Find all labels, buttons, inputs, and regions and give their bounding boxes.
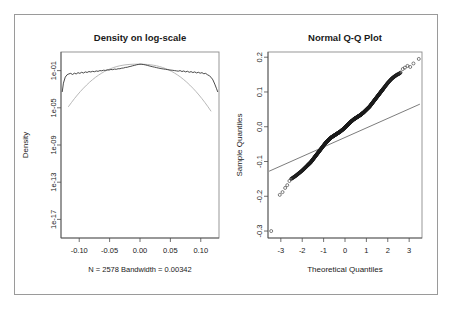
qq-data-point (417, 57, 420, 60)
qq-y-tick-label: 0.0 (255, 122, 264, 132)
density-plot-title: Density on log-scale (94, 32, 186, 43)
qq-x-tick-label: -1 (320, 246, 327, 255)
qq-x-tick-label: 3 (407, 246, 411, 255)
figure-canvas: Density on log-scale1e-011e-051e-091e-13… (0, 0, 451, 310)
density-y-tick-label: 1e-05 (49, 98, 58, 117)
qq-data-point (278, 193, 281, 196)
qq-plot-title: Normal Q-Q Plot (308, 32, 383, 43)
density-x-tick-label: 0.05 (163, 246, 178, 255)
qq-data-point (284, 186, 287, 189)
density-normal-reference-curve (68, 64, 211, 111)
density-y-axis-label: Density (21, 132, 30, 159)
qq-x-axis-label: Theoretical Quantiles (307, 265, 383, 274)
qq-plot-panel: Normal Q-Q Plot0.20.10.0-0.1-0.2-0.3-3-2… (226, 14, 438, 295)
qq-y-tick-label: -0.3 (255, 225, 264, 238)
qq-y-tick-label: 0.1 (255, 87, 264, 97)
qq-plot-svg: Normal Q-Q Plot0.20.10.0-0.1-0.2-0.3-3-2… (226, 14, 438, 295)
qq-plot-frame (268, 52, 422, 238)
qq-data-point (412, 62, 415, 65)
qq-y-tick-label: -0.1 (255, 155, 264, 168)
qq-reference-line (269, 104, 420, 171)
density-x-tick-label: -0.05 (101, 246, 118, 255)
qq-data-point (281, 191, 284, 194)
density-x-tick-label: -0.10 (71, 246, 88, 255)
qq-data-point (286, 184, 289, 187)
density-x-tick-label: 0.00 (133, 246, 148, 255)
density-plot-panel: Density on log-scale1e-011e-051e-091e-13… (14, 14, 226, 295)
density-subtitle: N = 2578 Bandwidth = 0.00342 (88, 265, 191, 274)
qq-y-tick-label: 0.2 (255, 52, 264, 62)
qq-y-tick-label: -0.2 (255, 190, 264, 203)
qq-x-tick-label: -3 (277, 246, 284, 255)
qq-x-tick-label: -2 (299, 246, 306, 255)
qq-data-point (270, 230, 273, 233)
density-plot-svg: Density on log-scale1e-011e-051e-091e-13… (14, 14, 226, 295)
qq-x-tick-label: 2 (386, 246, 390, 255)
qq-y-axis-label: Sample Quantiles (235, 113, 244, 176)
density-y-tick-label: 1e-13 (49, 173, 58, 192)
density-x-tick-label: 0.10 (193, 246, 208, 255)
density-plot-frame (61, 52, 219, 238)
qq-x-tick-label: 1 (364, 246, 368, 255)
density-y-tick-label: 1e-17 (49, 210, 58, 229)
density-y-tick-label: 1e-09 (49, 135, 58, 154)
qq-point-cloud (270, 57, 421, 232)
qq-x-tick-label: 0 (343, 246, 347, 255)
density-empirical-curve (62, 64, 218, 92)
qq-data-point (409, 65, 412, 68)
density-y-tick-label: 1e-01 (49, 61, 58, 80)
